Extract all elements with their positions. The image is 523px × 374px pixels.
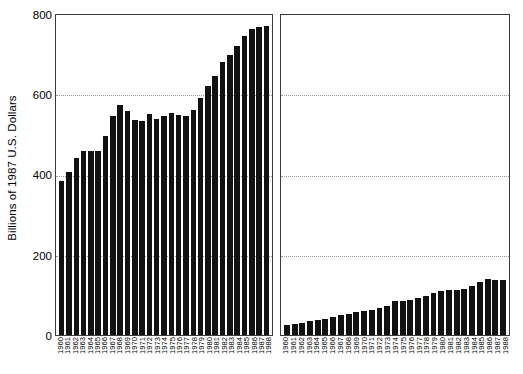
bar <box>66 172 72 335</box>
y-tick-400: 400 <box>8 170 52 180</box>
bar <box>256 27 262 335</box>
x-tick-cell: 1982 <box>456 337 462 373</box>
bar <box>249 29 255 335</box>
bar <box>205 86 211 335</box>
x-tick-cell: 1967 <box>338 337 344 373</box>
x-tick-cell: 1960 <box>283 337 289 373</box>
y-tick-800: 800 <box>8 10 52 20</box>
bar <box>315 320 321 335</box>
x-tick-cell: 1988 <box>503 337 509 373</box>
bar <box>500 280 506 335</box>
x-tick-cell: 1981 <box>448 337 454 373</box>
bar <box>220 62 226 335</box>
x-tick-cell: 1988 <box>267 337 273 373</box>
bar <box>438 291 444 335</box>
bar <box>176 115 182 335</box>
right-panel <box>280 14 510 336</box>
x-tick-cell: 1985 <box>244 337 250 373</box>
y-tick-200: 200 <box>8 251 52 261</box>
bar <box>307 321 313 335</box>
bar <box>161 116 167 335</box>
bar <box>95 151 101 335</box>
bar <box>415 298 421 335</box>
bar <box>154 119 160 335</box>
bar <box>292 324 298 335</box>
right-x-axis-tick-labels: 1960196119621963196419651966196719681969… <box>280 337 512 373</box>
bar <box>461 289 467 335</box>
bar <box>125 111 131 335</box>
x-tick-cell: 1966 <box>330 337 336 373</box>
x-tick-cell: 1968 <box>346 337 352 373</box>
bar <box>322 319 328 335</box>
x-tick-cell: 1983 <box>464 337 470 373</box>
bar <box>191 110 197 335</box>
bar <box>227 55 233 335</box>
bar <box>183 116 189 335</box>
x-tick-cell: 1976 <box>409 337 415 373</box>
bar <box>431 293 437 335</box>
left-panel <box>55 14 273 336</box>
bar <box>234 46 240 335</box>
bar <box>407 300 413 335</box>
bar <box>139 121 145 335</box>
bar <box>264 26 270 335</box>
bar <box>198 98 204 335</box>
bar <box>384 306 390 335</box>
bar <box>110 116 116 335</box>
x-tick-cell: 1962 <box>299 337 305 373</box>
x-tick-cell: 1961 <box>65 337 71 373</box>
bar <box>346 314 352 335</box>
bar <box>212 76 218 335</box>
left-x-axis-tick-labels: 1960196119621963196419651966196719681969… <box>55 337 275 373</box>
bar <box>132 120 138 335</box>
bar <box>369 310 375 335</box>
bar <box>446 290 452 335</box>
bar <box>74 158 80 335</box>
x-tick-cell: 1975 <box>401 337 407 373</box>
bar <box>477 282 483 335</box>
bar <box>423 296 429 335</box>
right-bar-series <box>281 15 509 335</box>
bar <box>330 317 336 335</box>
bar <box>147 114 153 335</box>
bar <box>485 279 491 335</box>
bar <box>88 151 94 335</box>
bar <box>454 290 460 335</box>
bar <box>299 323 305 335</box>
x-tick-cell: 1972 <box>147 337 153 373</box>
y-tick-600: 600 <box>8 90 52 100</box>
bar <box>361 311 367 335</box>
chart-figure: Billions of 1987 U.S. Dollars 800 600 40… <box>0 0 523 374</box>
bar <box>338 315 344 335</box>
left-plot-area <box>56 15 272 335</box>
bar <box>353 312 359 335</box>
x-tick-cell: 1974 <box>393 337 399 373</box>
right-plot-area <box>281 15 509 335</box>
bar <box>469 286 475 335</box>
x-tick-cell: 1969 <box>354 337 360 373</box>
x-tick-label: 1988 <box>502 337 510 354</box>
y-tick-0: 0 <box>8 331 52 341</box>
x-tick-cell: 1974 <box>162 337 168 373</box>
bar <box>400 301 406 335</box>
bar <box>103 136 109 335</box>
bar <box>377 308 383 335</box>
x-tick-cell: 1983 <box>229 337 235 373</box>
bar <box>392 301 398 335</box>
left-bar-series <box>56 15 272 335</box>
x-tick-cell: 1963 <box>80 337 86 373</box>
bar <box>242 36 248 335</box>
bar <box>169 113 175 335</box>
x-tick-cell: 1961 <box>291 337 297 373</box>
bar <box>81 151 87 335</box>
bar <box>492 280 498 335</box>
bar <box>284 325 290 335</box>
bar <box>59 181 65 335</box>
bar <box>117 105 123 335</box>
x-tick-label: 1988 <box>266 337 274 354</box>
y-axis-tick-labels: 800 600 400 200 0 <box>6 0 52 374</box>
